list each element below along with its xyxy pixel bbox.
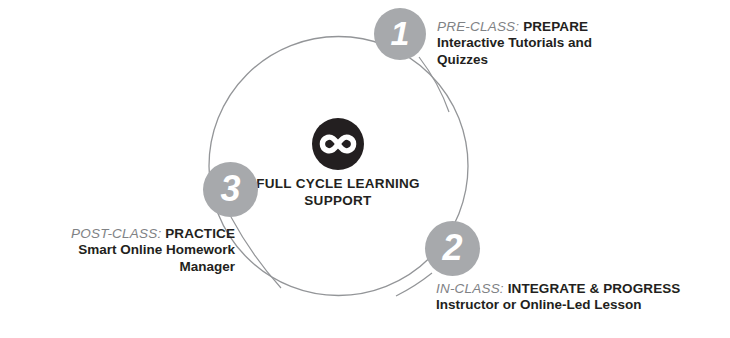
step-3-sub: Smart Online Homework Manager xyxy=(0,242,235,275)
step-3-headline-line: POST-CLASS: PRACTICE xyxy=(0,226,235,242)
step-3-headline: PRACTICE xyxy=(165,226,235,241)
step-callout-1: PRE-CLASS: PREPARE Interactive Tutorials… xyxy=(437,19,592,68)
step-badge-2-number: 2 xyxy=(442,227,462,269)
step-2-headline: INTEGRATE & PROGRESS xyxy=(508,281,681,296)
full-cycle-learning-diagram: FULL CYCLE LEARNING SUPPORT 1 2 3 PRE-CL… xyxy=(0,0,730,338)
step-badge-1-number: 1 xyxy=(391,14,410,53)
step-1-kicker: PRE-CLASS: xyxy=(437,19,519,34)
step-badge-3-number: 3 xyxy=(220,168,240,210)
step-badge-3[interactable]: 3 xyxy=(203,162,258,217)
step-2-headline-line: IN-CLASS: INTEGRATE & PROGRESS xyxy=(436,281,680,297)
step-3-kicker: POST-CLASS: xyxy=(71,226,161,241)
step-badge-2[interactable]: 2 xyxy=(425,221,480,276)
connector-line-step-2 xyxy=(396,273,432,296)
step-2-sub: Instructor or Online-Led Lesson xyxy=(436,297,680,313)
step-badge-1[interactable]: 1 xyxy=(374,8,426,60)
step-1-sub: Interactive Tutorials and Quizzes xyxy=(437,35,592,68)
infinity-icon xyxy=(312,118,364,170)
step-callout-2: IN-CLASS: INTEGRATE & PROGRESS Instructo… xyxy=(436,281,680,314)
step-2-kicker: IN-CLASS: xyxy=(436,281,504,296)
step-1-headline: PREPARE xyxy=(523,19,588,34)
step-1-headline-line: PRE-CLASS: PREPARE xyxy=(437,19,592,35)
step-callout-3: POST-CLASS: PRACTICE Smart Online Homewo… xyxy=(0,226,235,275)
